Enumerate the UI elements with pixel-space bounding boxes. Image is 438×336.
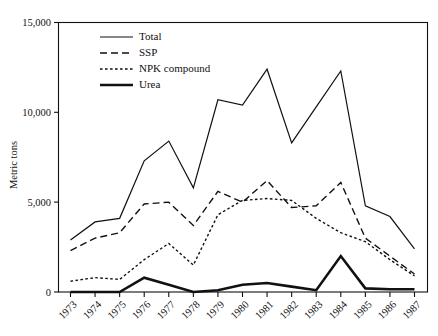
series-line-npk-compound xyxy=(71,199,415,282)
chart-legend: Total SSP NPK compound Urea xyxy=(100,30,211,90)
y-tick-label-15000: 15,000 xyxy=(22,17,51,28)
line-chart: 15,000 10,000 5,000 0 Metric tons 197319… xyxy=(0,0,438,336)
series-line-urea xyxy=(71,256,415,292)
x-tick-label-1984: 1984 xyxy=(327,298,350,321)
x-tick-label-1982: 1982 xyxy=(277,299,300,322)
x-tick-label-1987: 1987 xyxy=(400,299,423,322)
legend-label-ssp: SSP xyxy=(139,46,157,58)
x-axis-ticks xyxy=(71,292,415,297)
x-tick-label-1986: 1986 xyxy=(376,299,399,322)
y-axis-title: Metric tons xyxy=(8,141,19,189)
x-tick-label-1980: 1980 xyxy=(228,299,251,322)
x-tick-label-1978: 1978 xyxy=(179,299,202,322)
y-tick-label-10000: 10,000 xyxy=(22,107,51,118)
legend-label-urea: Urea xyxy=(139,78,160,90)
legend-item-total: Total xyxy=(100,30,161,42)
y-tick-label-5000: 5,000 xyxy=(27,197,51,208)
plot-frame xyxy=(59,23,428,293)
x-tick-label-1983: 1983 xyxy=(302,299,325,322)
x-tick-label-1975: 1975 xyxy=(105,299,128,322)
x-tick-label-1976: 1976 xyxy=(130,299,153,322)
x-tick-label-1974: 1974 xyxy=(81,298,104,321)
y-axis-tick-labels: 15,000 10,000 5,000 0 xyxy=(22,17,51,298)
x-axis-tick-labels: 1973197419751976197719781979198019811982… xyxy=(56,298,423,321)
y-tick-label-0: 0 xyxy=(46,287,51,298)
legend-item-ssp: SSP xyxy=(100,46,157,58)
legend-label-npk-compound: NPK compound xyxy=(139,62,211,74)
x-tick-label-1981: 1981 xyxy=(253,299,276,322)
chart-canvas: 15,000 10,000 5,000 0 Metric tons 197319… xyxy=(0,0,438,336)
x-tick-label-1979: 1979 xyxy=(204,299,227,322)
x-tick-label-1977: 1977 xyxy=(155,299,178,322)
legend-item-npk-compound: NPK compound xyxy=(100,62,211,74)
series-line-total xyxy=(71,69,415,249)
x-tick-label-1973: 1973 xyxy=(56,299,79,322)
x-tick-label-1985: 1985 xyxy=(351,299,374,322)
legend-item-urea: Urea xyxy=(100,78,160,90)
y-axis-ticks xyxy=(54,23,59,293)
series-layer xyxy=(71,69,415,292)
legend-label-total: Total xyxy=(139,30,161,42)
